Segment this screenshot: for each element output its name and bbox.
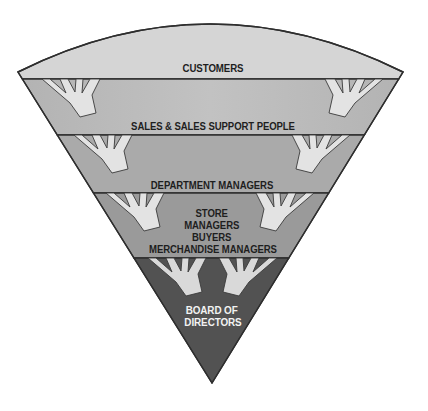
layer-customers: CUSTOMERS [18, 24, 403, 79]
layer-store: STORE MANAGERS BUYERS MERCHANDISE MANAGE… [94, 193, 329, 258]
layer-department: DEPARTMENT MANAGERS [57, 135, 364, 193]
organization-pyramid-diagram: CUSTOMERS SALES & SALES SUPPORT PEOPLE D… [0, 0, 428, 411]
layer-sales-label: SALES & SALES SUPPORT PEOPLE [131, 120, 295, 132]
layer-department-label: DEPARTMENT MANAGERS [151, 179, 274, 191]
layer-customers-label: CUSTOMERS [183, 62, 244, 74]
layer-board-label: BOARD OF DIRECTORS [184, 305, 241, 329]
layer-board: BOARD OF DIRECTORS [134, 258, 289, 383]
layer-sales: SALES & SALES SUPPORT PEOPLE [22, 79, 398, 135]
